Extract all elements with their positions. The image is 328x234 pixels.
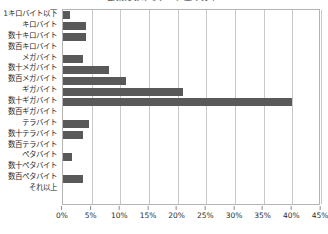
- bar-row: [63, 32, 319, 43]
- x-tick-30: 30%: [226, 206, 243, 220]
- y-axis-label: 数十ペタバイト: [0, 161, 60, 172]
- y-axis-label: 数百メガバイト: [0, 74, 60, 85]
- bar: [63, 175, 83, 183]
- tick-mark: [205, 206, 206, 210]
- x-tick-label: 5%: [85, 211, 97, 220]
- x-tick-40: 40%: [283, 206, 300, 220]
- y-axis-label: 数百テラバイト: [0, 140, 60, 151]
- tick-mark: [233, 206, 234, 210]
- x-tick-35: 35%: [254, 206, 271, 220]
- bar: [63, 131, 83, 139]
- y-axis-label: 数百キロバイト: [0, 42, 60, 53]
- bar-row: [63, 130, 319, 141]
- x-tick-label: 40%: [283, 211, 300, 220]
- bar-rows: [63, 10, 319, 204]
- y-axis-label: 1キロバイト以下: [0, 9, 60, 20]
- y-axis-label: 数百ペタバイト: [0, 172, 60, 183]
- y-axis-label: それ以上: [0, 183, 60, 194]
- plot-area: [62, 9, 320, 205]
- tick-mark: [291, 206, 292, 210]
- bar: [63, 66, 109, 74]
- chart-title: 企業におけるデータ量の分布: [0, 0, 325, 2]
- bar-row: [63, 21, 319, 32]
- y-axis-label: キロバイト: [0, 20, 60, 31]
- y-axis-label: 数百ギガバイト: [0, 107, 60, 118]
- tick-mark: [147, 206, 148, 210]
- bar: [63, 33, 86, 41]
- bar-row: [63, 64, 319, 75]
- x-tick-20: 20%: [168, 206, 185, 220]
- bar-row: [63, 10, 319, 21]
- bar-row: [63, 75, 319, 86]
- bar-row: [63, 43, 319, 54]
- bar-row: [63, 151, 319, 162]
- x-tick-10: 10%: [111, 206, 128, 220]
- x-tick-45: 45%: [312, 206, 328, 220]
- bar: [63, 55, 83, 63]
- x-tick-label: 15%: [140, 211, 157, 220]
- x-axis-tick-labels: 0%5%10%15%20%25%30%35%40%45%: [62, 206, 320, 226]
- x-tick-label: 25%: [197, 211, 214, 220]
- bar: [63, 120, 89, 128]
- tick-mark: [319, 206, 320, 210]
- bar-row: [63, 97, 319, 108]
- bar: [63, 22, 86, 30]
- bar-row: [63, 86, 319, 97]
- x-tick-0: 0%: [56, 206, 68, 220]
- bar: [63, 153, 72, 161]
- x-tick-label: 45%: [312, 211, 328, 220]
- bar: [63, 88, 183, 96]
- gridline-45: [321, 10, 322, 204]
- bar-row: [63, 184, 319, 195]
- y-axis-label: メガバイト: [0, 53, 60, 64]
- y-axis-label: 数十ギガバイト: [0, 96, 60, 107]
- bar-row: [63, 141, 319, 152]
- x-tick-label: 30%: [226, 211, 243, 220]
- bar-row: [63, 54, 319, 65]
- bar-row: [63, 173, 319, 184]
- y-axis-label: 数十メガバイト: [0, 63, 60, 74]
- tick-mark: [176, 206, 177, 210]
- x-tick-label: 20%: [168, 211, 185, 220]
- bar-row: [63, 162, 319, 173]
- x-tick-5: 5%: [85, 206, 97, 220]
- y-axis-category-labels: 1キロバイト以下キロバイト数十キロバイト数百キロバイトメガバイト数十メガバイト数…: [0, 9, 60, 205]
- y-axis-label: 数十キロバイト: [0, 31, 60, 42]
- bar: [63, 11, 70, 19]
- bar-row: [63, 108, 319, 119]
- x-tick-label: 0%: [56, 211, 68, 220]
- tick-mark: [62, 206, 63, 210]
- x-tick-label: 10%: [111, 211, 128, 220]
- x-tick-25: 25%: [197, 206, 214, 220]
- x-tick-label: 35%: [254, 211, 271, 220]
- y-axis-label: ペタバイト: [0, 150, 60, 161]
- tick-mark: [90, 206, 91, 210]
- y-axis-label: テラバイト: [0, 118, 60, 129]
- x-tick-15: 15%: [140, 206, 157, 220]
- bar-row: [63, 119, 319, 130]
- tick-mark: [119, 206, 120, 210]
- bar: [63, 77, 126, 85]
- tick-mark: [262, 206, 263, 210]
- bar: [63, 98, 292, 106]
- y-axis-label: 数十テラバイト: [0, 129, 60, 140]
- y-axis-label: ギガバイト: [0, 85, 60, 96]
